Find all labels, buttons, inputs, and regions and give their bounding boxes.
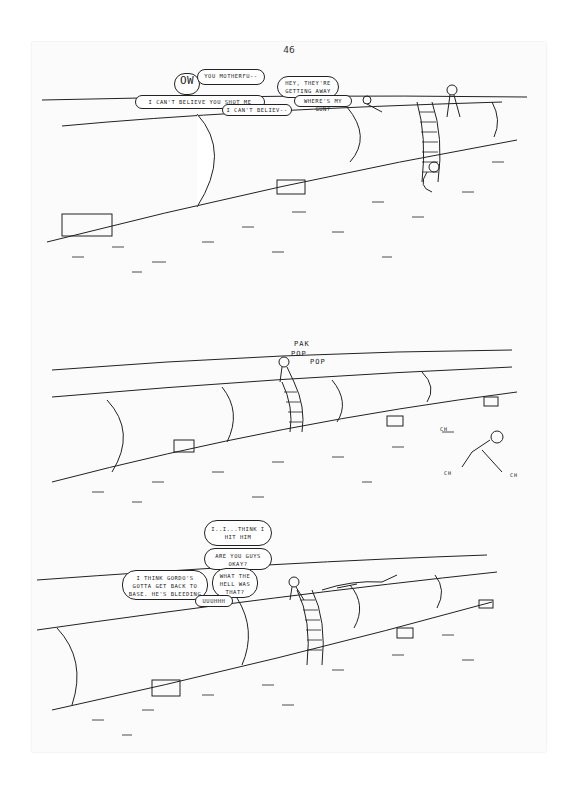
speech-bubble: WHAT THE HELL WAS THAT? [212, 568, 258, 598]
speech-bubble: YOU MOTHERFU-- [197, 69, 265, 85]
speech-bubble: ARE YOU GUYS OKAY? [204, 548, 272, 570]
sound-effect: POP [310, 358, 326, 366]
pipeline-illustration [32, 322, 546, 517]
pipeline-illustration [32, 520, 546, 752]
sound-effect: PAK [294, 340, 310, 348]
speech-bubble: UUUHHH [195, 595, 233, 607]
sound-effect: CH [510, 472, 518, 478]
sound-effect: CH [444, 470, 452, 476]
speech-bubble: I THINK GORDO'S GOTTA GET BACK TO BASE. … [122, 570, 208, 600]
sound-effect: CH [440, 426, 448, 432]
panel-3: I..I...THINK I HIT HIM ARE YOU GUYS OKAY… [32, 520, 546, 752]
comic-page: 46 [32, 42, 546, 752]
speech-bubble: I CAN'T BELIEV-- [222, 104, 292, 116]
panel-2: PAK POP POP CH CH CH [32, 322, 546, 517]
speech-bubble: WHERE'S MY GUN? [294, 95, 352, 107]
speech-bubble: I..I...THINK I HIT HIM [204, 520, 272, 546]
panel-1: OW YOU MOTHERFU-- HEY, THEY'RE GETTING A… [32, 42, 546, 287]
sound-effect: POP [291, 350, 307, 358]
